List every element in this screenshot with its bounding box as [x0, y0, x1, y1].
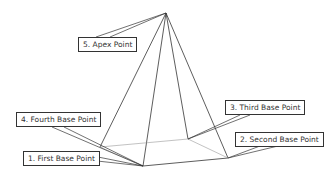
edge-apex-third — [166, 13, 188, 139]
label-third-base-point: 3. Third Base Point — [225, 100, 305, 115]
edge-first-second — [143, 158, 228, 166]
edge-apex-second — [166, 13, 228, 158]
edge-third-second — [188, 139, 228, 158]
leader-apex — [96, 13, 166, 37]
label-apex-point: 5. Apex Point — [78, 37, 137, 52]
label-fourth-base-point: 4. Fourth Base Point — [16, 112, 101, 127]
label-first-base-point: 1. First Base Point — [23, 151, 100, 166]
leader-second — [228, 146, 278, 158]
edge-fourth-third — [100, 139, 188, 147]
label-second-base-point: 2. Second Base Point — [235, 132, 324, 147]
